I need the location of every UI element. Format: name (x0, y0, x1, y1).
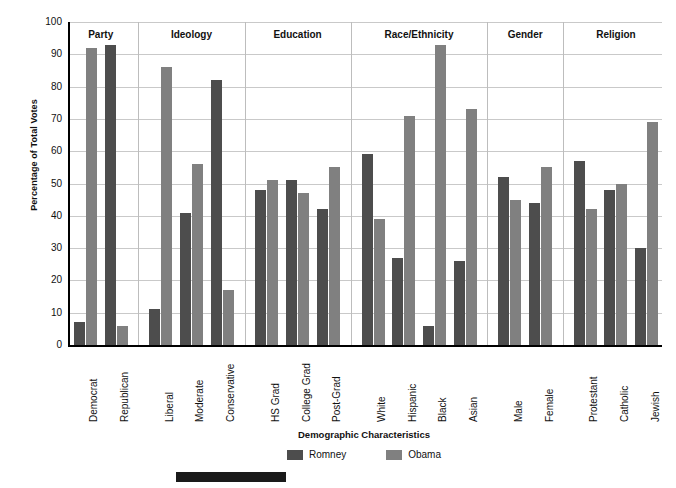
y-tick-label: 40 (26, 211, 62, 221)
x-tick-label: Democrat (88, 379, 99, 422)
group-header: Ideology (145, 22, 237, 47)
group-divider (138, 22, 139, 345)
bar-romney[interactable] (74, 322, 85, 345)
bar-obama[interactable] (647, 122, 658, 345)
bar-obama[interactable] (616, 184, 627, 346)
group-header: Education (252, 22, 344, 47)
group-divider (487, 22, 488, 345)
x-tick-label: White (376, 396, 387, 422)
y-tick-label: 90 (26, 49, 62, 59)
bar-romney[interactable] (529, 203, 540, 345)
legend-item[interactable]: Romney (287, 449, 346, 460)
bar-romney[interactable] (180, 213, 191, 345)
y-tick-label: 10 (26, 308, 62, 318)
x-tick-label: HS Grad (270, 383, 281, 422)
bar-romney[interactable] (498, 177, 509, 345)
group-header: Religion (570, 22, 662, 47)
group-header: Party (70, 22, 131, 47)
y-tick-label: 0 (26, 340, 62, 350)
group-header: Race/Ethnicity (358, 22, 481, 47)
y-tick-label: 100 (26, 17, 62, 27)
bar-obama[interactable] (510, 200, 521, 345)
x-tick-label: Protestant (588, 376, 599, 422)
plot-area: PartyIdeologyEducationRace/EthnicityGend… (68, 22, 662, 347)
x-tick-label: Conservative (225, 364, 236, 422)
group-divider (245, 22, 246, 345)
x-axis-title: Demographic Characteristics (68, 429, 660, 440)
bar-obama[interactable] (298, 193, 309, 345)
x-tick-label: College Grad (301, 363, 312, 422)
bar-romney[interactable] (149, 309, 160, 345)
bar-obama[interactable] (329, 167, 340, 345)
bar-obama[interactable] (374, 219, 385, 345)
bar-obama[interactable] (192, 164, 203, 345)
y-axis-tick-labels: 1009080706050403020100 (26, 22, 62, 345)
x-tick-label: Male (513, 400, 524, 422)
bar-romney[interactable] (574, 161, 585, 345)
x-tick-label: Black (437, 398, 448, 422)
x-tick-label: Asian (468, 397, 479, 422)
group-divider (563, 22, 564, 345)
x-tick-label: Catholic (619, 386, 630, 422)
y-tick-label: 60 (26, 146, 62, 156)
scan-artifact-bar (176, 472, 286, 482)
bar-obama[interactable] (117, 326, 128, 345)
x-tick-label: Hispanic (407, 384, 418, 422)
bars-layer (70, 22, 662, 345)
legend-label: Romney (309, 449, 346, 460)
bar-obama[interactable] (223, 290, 234, 345)
bar-romney[interactable] (211, 80, 222, 345)
group-header-band: PartyIdeologyEducationRace/EthnicityGend… (70, 22, 662, 47)
legend-label: Obama (408, 449, 441, 460)
y-tick-label: 30 (26, 243, 62, 253)
group-divider (351, 22, 352, 345)
y-tick-label: 70 (26, 114, 62, 124)
x-tick-label: Female (544, 389, 555, 422)
bar-chart: Percentage of Total Votes 10090807060504… (0, 0, 676, 488)
bar-romney[interactable] (286, 180, 297, 345)
bar-obama[interactable] (541, 167, 552, 345)
y-tick-label: 50 (26, 179, 62, 189)
bar-romney[interactable] (423, 326, 434, 345)
chart-legend: RomneyObama (68, 449, 660, 460)
legend-swatch (287, 450, 303, 460)
bar-romney[interactable] (317, 209, 328, 345)
bar-romney[interactable] (635, 248, 646, 345)
x-tick-label: Moderate (194, 380, 205, 422)
bar-romney[interactable] (392, 258, 403, 345)
x-axis-tick-labels: DemocratRepublicanLiberalModerateConserv… (68, 348, 660, 428)
bar-obama[interactable] (86, 48, 97, 345)
legend-item[interactable]: Obama (386, 449, 441, 460)
bar-romney[interactable] (255, 190, 266, 345)
bar-romney[interactable] (454, 261, 465, 345)
bar-romney[interactable] (105, 45, 116, 345)
bar-obama[interactable] (267, 180, 278, 345)
bar-obama[interactable] (404, 116, 415, 345)
y-tick-label: 80 (26, 82, 62, 92)
bar-romney[interactable] (362, 154, 373, 345)
bar-romney[interactable] (604, 190, 615, 345)
group-header: Gender (494, 22, 555, 47)
y-tick-label: 20 (26, 275, 62, 285)
x-tick-label: Post-Grad (331, 376, 342, 422)
legend-swatch (386, 450, 402, 460)
bar-obama[interactable] (586, 209, 597, 345)
bar-obama[interactable] (161, 67, 172, 345)
bar-obama[interactable] (435, 45, 446, 345)
x-tick-label: Liberal (164, 392, 175, 422)
x-tick-label: Republican (119, 372, 130, 422)
bar-obama[interactable] (466, 109, 477, 345)
x-tick-label: Jewish (650, 391, 661, 422)
